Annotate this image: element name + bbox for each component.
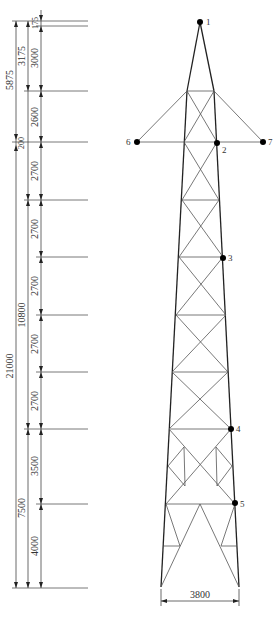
tower-nodes: [134, 19, 266, 506]
dim-3500: 3500: [29, 456, 40, 476]
dim-200: 200: [17, 137, 26, 149]
dim-21000: 21000: [4, 354, 15, 379]
node-3-label: 3: [228, 253, 233, 263]
tower-drawing: 5875 200 21000 3175 10800 7500 175 3000 …: [0, 0, 276, 618]
dim-4000: 4000: [29, 536, 40, 556]
node-2-marker: [214, 140, 220, 146]
node-5-label: 5: [240, 499, 245, 509]
node-7-label: 7: [268, 137, 273, 147]
node-1-marker: [197, 19, 203, 25]
dim-2700-a: 2700: [29, 161, 40, 181]
node-3-marker: [220, 255, 226, 261]
dim-3000: 3000: [29, 48, 40, 68]
dim-5875: 5875: [4, 70, 15, 90]
dim-175: 175: [31, 17, 40, 29]
dim-2700-b: 2700: [29, 219, 40, 239]
node-5-marker: [232, 500, 238, 506]
node-4-label: 4: [236, 424, 241, 434]
node-1-label: 1: [206, 17, 211, 27]
tower-main-legs: [161, 22, 239, 587]
node-4-marker: [228, 426, 234, 432]
dimension-labels: 5875 200 21000 3175 10800 7500 175 3000 …: [4, 17, 40, 556]
dim-2700-e: 2700: [29, 391, 40, 411]
node-6-label: 6: [126, 137, 131, 147]
node-2-label: 2: [222, 145, 227, 155]
dim-10800: 10800: [16, 303, 27, 328]
dim-2600: 2600: [29, 107, 40, 127]
dim-3175: 3175: [16, 46, 27, 66]
dim-7500: 7500: [16, 498, 27, 518]
dim-3800: 3800: [190, 589, 210, 600]
tower-bracing: [137, 91, 263, 587]
dim-2700-d: 2700: [29, 334, 40, 354]
dim-2700-c: 2700: [29, 276, 40, 296]
node-7-marker: [260, 139, 266, 145]
node-6-marker: [134, 139, 140, 145]
